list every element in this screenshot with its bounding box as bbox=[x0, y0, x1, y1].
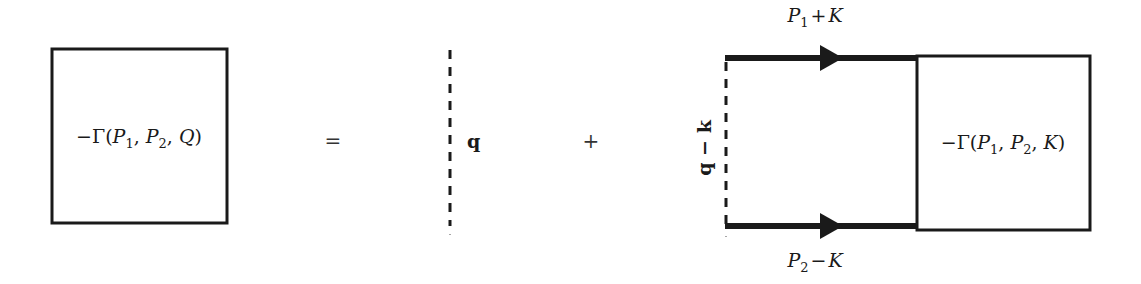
bottom-momentum-label: P2−K bbox=[786, 249, 844, 275]
top-momentum-label: P1+K bbox=[786, 4, 844, 30]
q-label: q bbox=[467, 130, 480, 152]
lhs-vertex-box: −Γ(P1, P2, Q) bbox=[52, 49, 227, 223]
top-arrow-icon bbox=[820, 45, 843, 71]
equals-sign: = bbox=[325, 129, 342, 153]
lhs-vertex-label: −Γ(P1, P2, Q) bbox=[76, 125, 202, 151]
plus-sign: + bbox=[583, 129, 600, 153]
rhs-vertex-label: −Γ(P1, P2, K) bbox=[941, 131, 1065, 157]
vertex-equation-diagram: −Γ(P1, P2, Q) = q + P1+K P2−K q − k −Γ(P… bbox=[0, 0, 1141, 284]
exchange-momentum-label: q − k bbox=[693, 119, 715, 175]
bottom-arrow-icon bbox=[820, 213, 843, 239]
